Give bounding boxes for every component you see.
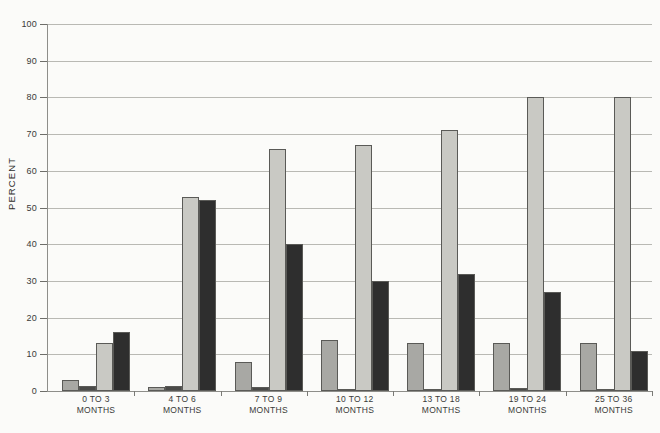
bar [286,244,303,391]
bar [614,97,631,391]
bar [493,343,510,391]
bar [424,389,441,391]
bar [510,388,527,391]
bar [597,389,614,391]
y-axis-tick-label: 20 [0,313,37,323]
x-axis-category-label: 13 TO 18MONTHS [398,394,484,415]
x-axis-category-line: 10 TO 12 [312,394,398,405]
bar [252,387,269,391]
x-axis-category-line: MONTHS [53,405,139,416]
y-axis-tick [40,97,47,98]
y-axis-tick-label: 90 [0,56,37,66]
x-axis-category-line: 25 TO 36 [571,394,657,405]
bar [165,386,182,392]
y-axis-tick [40,171,47,172]
x-axis-category-line: 7 TO 9 [225,394,311,405]
y-axis-tick [40,281,47,282]
y-axis-tick [40,134,47,135]
y-axis-tick-label: 0 [0,386,37,396]
bar [407,343,424,391]
y-axis-tick [40,61,47,62]
footer-note [6,423,646,432]
x-axis-category-line: 4 TO 6 [139,394,225,405]
bar-group [493,24,561,391]
bar-group [407,24,475,391]
bar [321,340,338,391]
y-axis-tick-label: 50 [0,203,37,213]
x-axis-category-label: 4 TO 6MONTHS [139,394,225,415]
plot-area: 0 TO 3MONTHS4 TO 6MONTHS7 TO 9MONTHS10 T… [48,24,652,391]
bar [113,332,130,391]
bar [148,387,165,391]
bar [338,389,355,391]
bar [79,386,96,392]
y-axis-tick-label: 100 [0,19,37,29]
x-axis-category-line: 19 TO 24 [484,394,570,405]
x-axis-category-line: 0 TO 3 [53,394,139,405]
x-axis-category-label: 0 TO 3MONTHS [53,394,139,415]
y-axis-tick [40,244,47,245]
bar [62,380,79,391]
bar-group [62,24,130,391]
bar-group [580,24,648,391]
x-axis-category-label: 25 TO 36MONTHS [571,394,657,415]
x-axis-category-label: 7 TO 9MONTHS [225,394,311,415]
bar [544,292,561,391]
bar [441,130,458,391]
y-axis-tick [40,24,47,25]
x-axis-category-line: MONTHS [398,405,484,416]
bar-group [321,24,389,391]
bar [372,281,389,391]
bar [199,200,216,391]
y-axis-tick-label: 60 [0,166,37,176]
bar [355,145,372,391]
x-axis-category-line: MONTHS [312,405,398,416]
bar [527,97,544,391]
x-axis-category-line: MONTHS [484,405,570,416]
bar [631,351,648,391]
y-axis-tick [40,354,47,355]
y-axis-tick-label: 10 [0,349,37,359]
y-axis-tick-label: 80 [0,92,37,102]
x-axis-category-line: MONTHS [571,405,657,416]
x-axis-category-line: 13 TO 18 [398,394,484,405]
y-axis-tick-label: 30 [0,276,37,286]
y-axis-tick [40,208,47,209]
bar [235,362,252,391]
x-axis-category-label: 10 TO 12MONTHS [312,394,398,415]
bar-chart: PERCENT 0 TO 3MONTHS4 TO 6MONTHS7 TO 9MO… [0,0,660,433]
bar [580,343,597,391]
bar-group [235,24,303,391]
y-axis-tick-label: 40 [0,239,37,249]
y-axis-tick [40,391,47,392]
bar [182,197,199,392]
x-axis-line [47,391,652,392]
x-axis-category-label: 19 TO 24MONTHS [484,394,570,415]
y-axis-tick-label: 70 [0,129,37,139]
x-axis-category-line: MONTHS [225,405,311,416]
bar [458,274,475,391]
bar [269,149,286,391]
x-axis-category-line: MONTHS [139,405,225,416]
y-axis-tick [40,318,47,319]
bar [96,343,113,391]
bar-group [148,24,216,391]
